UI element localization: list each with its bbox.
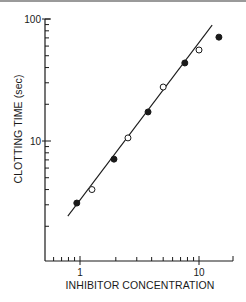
y-tick-label: 10: [30, 136, 42, 147]
x-tick-label: 10: [193, 267, 205, 278]
chart: 11010100 INHIBITOR CONCENTRATION CLOTTIN…: [0, 0, 246, 302]
open-circle-marker: [125, 135, 131, 141]
y-axis-label: CLOTTING TIME (sec): [12, 74, 24, 183]
open-circle-marker: [196, 47, 202, 53]
filled-circle-marker: [145, 109, 151, 115]
open-circle-marker: [160, 84, 166, 90]
filled-circle-marker: [111, 156, 117, 162]
x-axis-label: INHIBITOR CONCENTRATION: [66, 279, 215, 291]
data-points: [74, 34, 222, 206]
y-tick-label: 100: [24, 14, 41, 25]
filled-circle-marker: [216, 34, 222, 40]
filled-circle-marker: [74, 200, 80, 206]
axes: 11010100: [24, 14, 233, 279]
filled-circle-marker: [182, 60, 188, 66]
x-tick-label: 1: [77, 267, 83, 278]
open-circle-marker: [89, 187, 95, 193]
